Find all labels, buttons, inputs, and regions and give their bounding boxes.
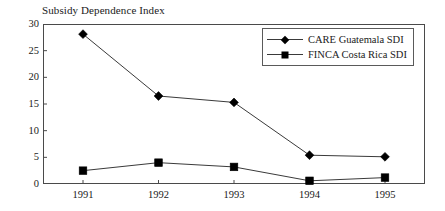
- y-tick-label: 20: [9, 72, 39, 82]
- legend-square-icon: [267, 48, 303, 61]
- data-point-marker: [305, 151, 314, 160]
- y-tick-label: 25: [9, 46, 39, 56]
- legend-marker: [281, 35, 289, 43]
- legend-item[interactable]: FINCA Costa Rica SDI: [267, 47, 407, 62]
- chart-legend: CARE Guatemala SDIFINCA Costa Rica SDI: [262, 28, 414, 66]
- data-point-marker: [230, 98, 239, 107]
- x-tick-label: 1995: [375, 189, 396, 201]
- x-axis-labels: 19911992199319941995: [43, 189, 425, 205]
- legend-diamond-icon: [267, 33, 303, 46]
- y-tick-label: 5: [9, 152, 39, 162]
- y-tick-label: 15: [9, 99, 39, 109]
- data-point-marker: [155, 159, 163, 167]
- data-point-marker: [381, 174, 389, 182]
- legend-label: FINCA Costa Rica SDI: [308, 49, 407, 61]
- y-tick-label: 10: [9, 126, 39, 136]
- legend-label: CARE Guatemala SDI: [308, 34, 404, 46]
- y-axis-labels: 051015202530: [8, 24, 39, 184]
- x-tick-label: 1991: [73, 189, 94, 201]
- legend-item[interactable]: CARE Guatemala SDI: [267, 32, 407, 47]
- data-point-marker: [230, 163, 238, 171]
- x-tick-label: 1994: [299, 189, 320, 201]
- data-point-marker: [306, 177, 314, 185]
- data-point-marker: [381, 152, 390, 161]
- x-tick-label: 1993: [224, 189, 245, 201]
- legend-marker: [282, 51, 289, 58]
- chart-container: Subsidy Dependence Index 051015202530 19…: [0, 0, 445, 211]
- y-tick-label: 30: [9, 19, 39, 29]
- data-point-marker: [79, 167, 87, 175]
- y-tick-label: 0: [9, 179, 39, 189]
- chart-title: Subsidy Dependence Index: [42, 4, 165, 17]
- x-tick-label: 1992: [148, 189, 169, 201]
